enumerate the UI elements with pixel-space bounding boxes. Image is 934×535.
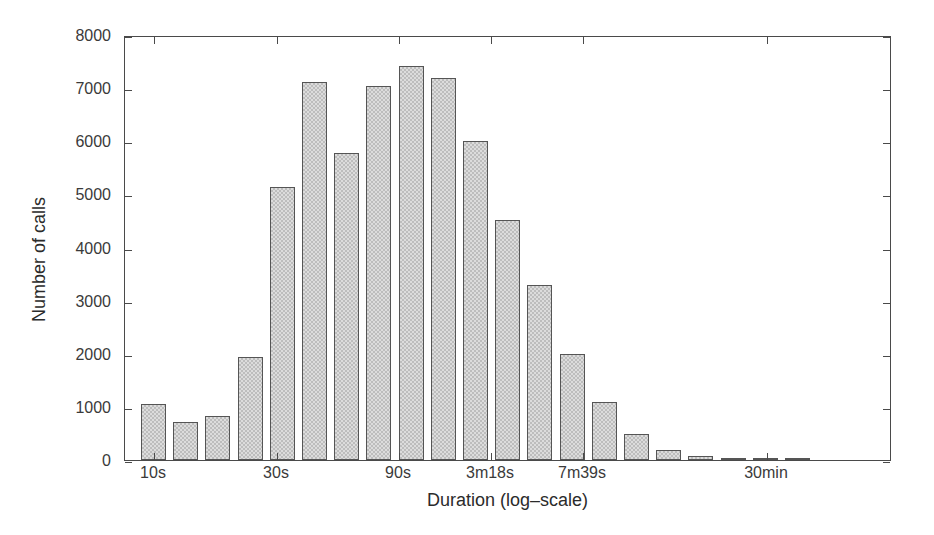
y-axis-tick bbox=[883, 250, 890, 251]
x-axis-tick bbox=[583, 453, 584, 460]
bar bbox=[721, 458, 746, 460]
bar bbox=[205, 416, 230, 460]
x-axis-tick bbox=[491, 37, 492, 44]
x-axis-title: Duration (log–scale) bbox=[124, 490, 891, 511]
y-axis-tick-label: 4000 bbox=[75, 240, 111, 258]
y-axis-tick bbox=[883, 303, 890, 304]
bar bbox=[624, 434, 649, 460]
x-axis-tick-labels: 10s30s90s3m18s7m39s30min bbox=[124, 464, 891, 488]
plot-area bbox=[124, 36, 891, 461]
bar bbox=[560, 354, 585, 460]
x-axis-tick bbox=[767, 37, 768, 44]
bar bbox=[785, 458, 810, 460]
bar bbox=[334, 153, 359, 460]
y-axis-tick-label: 1000 bbox=[75, 399, 111, 417]
x-axis-tick-label: 90s bbox=[385, 464, 411, 482]
bar bbox=[270, 187, 295, 460]
x-axis-tick bbox=[767, 453, 768, 460]
y-axis-tick bbox=[883, 37, 890, 38]
x-axis-tick-label: 30min bbox=[744, 464, 788, 482]
y-axis-tick bbox=[883, 462, 890, 463]
y-axis-tick-label: 3000 bbox=[75, 293, 111, 311]
figure: 010002000300040005000600070008000 Number… bbox=[0, 0, 934, 535]
bar bbox=[302, 82, 327, 460]
y-axis-tick-label: 7000 bbox=[75, 80, 111, 98]
y-axis-tick bbox=[883, 143, 890, 144]
y-axis-tick-labels: 010002000300040005000600070008000 bbox=[0, 36, 117, 461]
bar bbox=[656, 450, 681, 460]
y-axis-tick bbox=[883, 356, 890, 357]
y-axis-title: Number of calls bbox=[29, 145, 50, 375]
bar bbox=[399, 66, 424, 460]
bar bbox=[238, 357, 263, 460]
bar bbox=[141, 404, 166, 460]
x-axis-tick-label: 30s bbox=[263, 464, 289, 482]
x-axis-tick bbox=[154, 37, 155, 44]
y-axis-tick-label: 8000 bbox=[75, 27, 111, 45]
y-axis-tick bbox=[883, 90, 890, 91]
x-axis-tick bbox=[491, 453, 492, 460]
x-axis-tick-label: 3m18s bbox=[466, 464, 514, 482]
y-axis-tick bbox=[125, 462, 132, 463]
bar bbox=[495, 220, 520, 460]
x-axis-tick bbox=[399, 37, 400, 44]
y-axis-tick bbox=[125, 356, 132, 357]
bar-series bbox=[125, 37, 890, 460]
x-axis-tick bbox=[277, 453, 278, 460]
y-axis-tick bbox=[125, 303, 132, 304]
bar bbox=[173, 422, 198, 460]
y-axis-tick bbox=[125, 90, 132, 91]
bar bbox=[431, 78, 456, 461]
y-axis-tick bbox=[125, 196, 132, 197]
y-axis-tick-label: 5000 bbox=[75, 186, 111, 204]
x-axis-tick bbox=[277, 37, 278, 44]
bar bbox=[366, 86, 391, 460]
bar bbox=[753, 458, 778, 460]
bar bbox=[463, 141, 488, 460]
x-axis-tick bbox=[154, 453, 155, 460]
y-axis-tick bbox=[125, 37, 132, 38]
y-axis-tick bbox=[883, 409, 890, 410]
y-axis-tick bbox=[883, 196, 890, 197]
x-axis-tick bbox=[583, 37, 584, 44]
y-axis-tick bbox=[125, 409, 132, 410]
x-axis-tick-label: 10s bbox=[140, 464, 166, 482]
y-axis-tick-label: 6000 bbox=[75, 133, 111, 151]
y-axis-tick bbox=[125, 250, 132, 251]
x-axis-tick bbox=[399, 453, 400, 460]
bar bbox=[527, 285, 552, 460]
y-axis-tick-label: 0 bbox=[102, 452, 111, 470]
y-axis-tick-label: 2000 bbox=[75, 346, 111, 364]
x-axis-tick-label: 7m39s bbox=[558, 464, 606, 482]
bar bbox=[688, 456, 713, 460]
y-axis-tick bbox=[125, 143, 132, 144]
bar bbox=[592, 402, 617, 460]
